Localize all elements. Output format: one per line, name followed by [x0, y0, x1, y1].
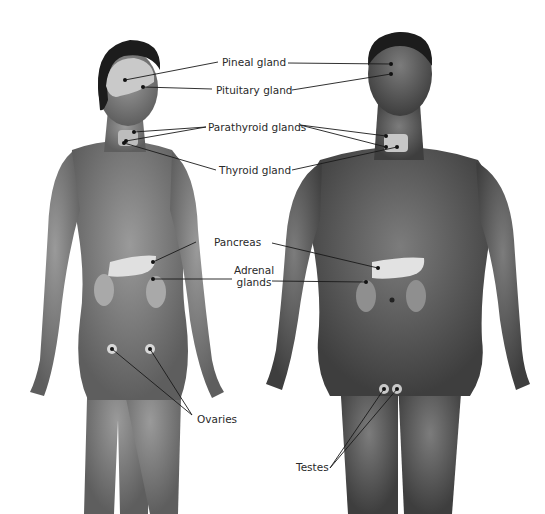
endocrine-diagram: Pineal gland Pituitary gland Parathyroid…	[0, 0, 545, 514]
label-parathyroid-glands: Parathyroid glands	[208, 121, 306, 133]
female-figure	[30, 50, 224, 514]
male-kidney-right	[406, 280, 426, 312]
label-testes: Testes	[296, 461, 329, 473]
label-pituitary-gland: Pituitary gland	[216, 84, 292, 96]
female-kidney-right	[146, 276, 166, 308]
anatomy-illustration	[0, 0, 545, 514]
label-pancreas: Pancreas	[214, 236, 261, 248]
label-adrenal-line1: Adrenal	[232, 264, 276, 276]
female-kidney-left	[94, 274, 114, 306]
label-thyroid-gland: Thyroid gland	[219, 164, 291, 176]
label-adrenal-glands: Adrenal glands	[232, 264, 276, 288]
male-navel	[390, 298, 395, 303]
label-pineal-gland: Pineal gland	[222, 56, 286, 68]
label-adrenal-line2: glands	[232, 276, 276, 288]
male-kidney-left	[356, 280, 376, 312]
label-ovaries: Ovaries	[197, 413, 237, 425]
